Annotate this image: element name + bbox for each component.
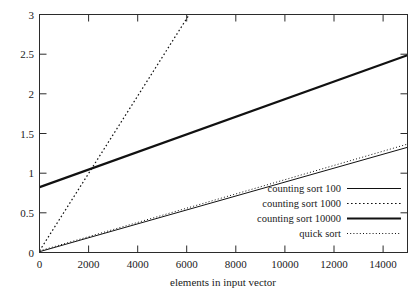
- legend: counting sort 100 counting sort 1000 cou…: [257, 183, 401, 239]
- x-tick-label: 0: [37, 258, 43, 270]
- y-tick-label: 2: [29, 88, 35, 100]
- legend-label-counting-sort-10000: counting sort 10000: [257, 213, 341, 224]
- plot-frame: [40, 15, 408, 253]
- x-tick-label: 14000: [369, 258, 397, 270]
- y-tick-labels: 3 2.5 2 1.5 1 0.5 0: [20, 9, 34, 259]
- x-tick-label: 10000: [271, 258, 299, 270]
- x-tick-label: 12000: [320, 258, 348, 270]
- line-chart: 3 2.5 2 1.5 1 0.5 0 0 2000 4000 6000 800…: [0, 0, 419, 298]
- series-line-counting-sort-10000: [40, 55, 408, 187]
- x-tick-labels: 0 2000 4000 6000 8000 10000 12000 14000: [37, 258, 398, 270]
- y-tick-label: 0: [29, 247, 35, 259]
- series-line-counting-sort-100: [40, 147, 408, 251]
- y-tick-label: 0.5: [20, 207, 34, 219]
- y-tick-label: 1.5: [20, 128, 34, 140]
- y-tick-label: 3: [29, 9, 35, 21]
- y-tick-label: 2.5: [20, 48, 34, 60]
- y-tick-label: 1: [29, 167, 35, 179]
- legend-label-quick-sort: quick sort: [299, 228, 341, 239]
- legend-label-counting-sort-1000: counting sort 1000: [262, 198, 341, 209]
- x-tick-label: 8000: [225, 258, 248, 270]
- x-tick-label: 6000: [176, 258, 199, 270]
- x-tick-label: 2000: [78, 258, 101, 270]
- series-group: [40, 15, 408, 252]
- x-tick-label: 4000: [127, 258, 150, 270]
- legend-label-counting-sort-100: counting sort 100: [268, 183, 342, 194]
- series-line-quick-sort: [40, 144, 408, 251]
- y-axis-ticks: [40, 15, 408, 253]
- x-axis-title: elements in input vector: [170, 276, 276, 288]
